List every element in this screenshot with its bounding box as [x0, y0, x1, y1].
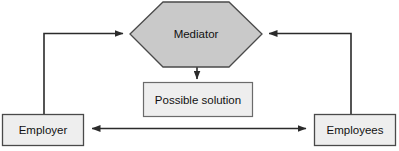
- mediation-diagram: Mediator Possible solution Employer Empl…: [0, 0, 399, 151]
- node-shape-mediator[interactable]: [130, 2, 262, 67]
- node-shape-solution[interactable]: [144, 83, 253, 117]
- node-shape-employer[interactable]: [3, 115, 84, 146]
- node-shape-employees[interactable]: [315, 115, 396, 146]
- edge-employees-to-mediator: [269, 34, 351, 115]
- edge-employer-to-mediator: [44, 34, 123, 115]
- diagram-canvas: [0, 0, 399, 151]
